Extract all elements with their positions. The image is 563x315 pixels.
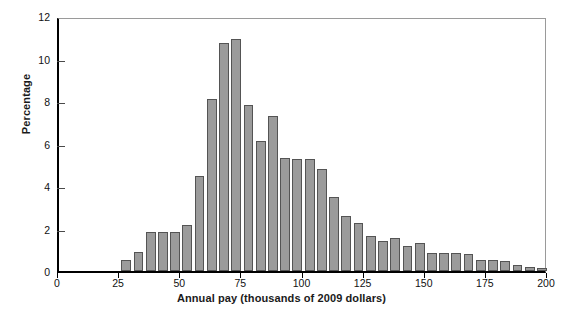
histogram-bar (513, 265, 523, 271)
histogram-bar (464, 254, 474, 271)
y-axis-tick (57, 231, 65, 232)
x-axis-title: Annual pay (thousands of 2009 dollars) (0, 292, 563, 304)
histogram-bar (244, 105, 254, 271)
histogram-bar (256, 141, 266, 271)
histogram-bar (488, 260, 498, 271)
plot-area (57, 18, 546, 273)
histogram-bar (451, 253, 461, 271)
x-axis-tick-label: 150 (404, 277, 444, 289)
x-axis-tick-label: 125 (343, 277, 383, 289)
histogram-bar (292, 159, 302, 271)
histogram-bar (317, 169, 327, 271)
histogram-bar (219, 43, 229, 271)
histogram-bar (427, 253, 437, 271)
histogram-bar (354, 223, 364, 271)
histogram-bar (366, 236, 376, 271)
y-axis-tick-label: 6 (20, 139, 50, 151)
histogram-bar (378, 241, 388, 271)
histogram-bar (525, 267, 535, 271)
histogram-bar (476, 260, 486, 271)
y-axis-tick (57, 188, 65, 189)
histogram-bar (341, 216, 351, 271)
y-axis-tick-label: 4 (20, 181, 50, 193)
x-axis-tick-label: 75 (220, 277, 260, 289)
x-axis-tick-label: 0 (37, 277, 77, 289)
bar-series (59, 19, 545, 271)
histogram-bar (537, 268, 547, 271)
histogram-bar (207, 99, 217, 271)
histogram-figure: Percentage 024681012 0255075100125150175… (0, 0, 563, 315)
x-axis-tick-label: 175 (465, 277, 505, 289)
x-axis-tick-label: 200 (526, 277, 563, 289)
y-axis-tick-label: 8 (20, 96, 50, 108)
histogram-bar (158, 232, 168, 271)
y-axis-tick-label: 10 (20, 54, 50, 66)
histogram-bar (170, 232, 180, 271)
x-axis-tick-label: 100 (282, 277, 322, 289)
histogram-bar (403, 246, 413, 272)
histogram-bar (415, 243, 425, 271)
histogram-bar (195, 176, 205, 271)
histogram-bar (329, 197, 339, 271)
x-axis-tick-label: 25 (98, 277, 138, 289)
histogram-bar (146, 232, 156, 271)
histogram-bar (439, 253, 449, 271)
histogram-bar (121, 260, 131, 271)
y-axis-tick (57, 146, 65, 147)
y-axis-tick-label: 12 (20, 11, 50, 23)
histogram-bar (268, 116, 278, 271)
histogram-bar (134, 252, 144, 271)
histogram-bar (280, 158, 290, 271)
histogram-bar (500, 261, 510, 271)
y-axis-tick-label: 2 (20, 224, 50, 236)
y-axis-tick (57, 103, 65, 104)
histogram-bar (390, 238, 400, 271)
histogram-bar (231, 39, 241, 271)
histogram-bar (305, 159, 315, 271)
y-axis-tick (57, 61, 65, 62)
histogram-bar (182, 225, 192, 271)
x-axis-tick-label: 50 (159, 277, 199, 289)
